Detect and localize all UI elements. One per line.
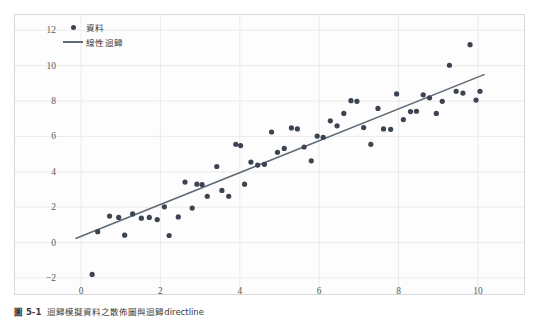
chart-legend: 資料線性迴歸	[60, 21, 123, 48]
y-tick-label: 2	[26, 202, 56, 212]
y-tick-label: 8	[26, 96, 56, 106]
legend-label: 資料	[86, 21, 105, 33]
y-tick-label: 10	[26, 61, 56, 71]
y-tick-label: 0	[26, 238, 56, 248]
line-marker-key	[60, 41, 86, 43]
x-tick-label: 4	[237, 286, 242, 296]
legend-line-icon	[63, 41, 83, 43]
y-tick-label: 12	[26, 25, 56, 35]
legend-dot-icon	[71, 25, 76, 30]
y-tick-label: −2	[26, 273, 56, 283]
y-tick-label: 6	[26, 131, 56, 141]
legend-item: 線性迴歸	[60, 36, 123, 48]
figure-container: −2024681012 0246810 資料線性迴歸 圖 5-1迴歸模擬資料之散…	[0, 0, 540, 321]
x-tick-label: 2	[158, 286, 163, 296]
x-tick-label: 10	[473, 286, 483, 296]
y-tick-label: 4	[26, 167, 56, 177]
x-tick-label: 8	[396, 286, 401, 296]
legend-label: 線性迴歸	[86, 36, 123, 48]
x-tick-label: 6	[317, 286, 322, 296]
caption-text: 迴歸模擬資料之散佈圖與迴歸directline	[47, 307, 204, 317]
dot-marker-key	[60, 25, 86, 30]
regression-line	[76, 75, 484, 239]
scatter-plot	[0, 0, 540, 321]
x-tick-label: 0	[79, 286, 84, 296]
gridlines	[15, 15, 524, 294]
legend-item: 資料	[60, 21, 123, 33]
caption-label: 圖 5-1	[14, 307, 41, 317]
data-points	[90, 42, 483, 277]
figure-caption: 圖 5-1迴歸模擬資料之散佈圖與迴歸directline	[14, 305, 414, 317]
